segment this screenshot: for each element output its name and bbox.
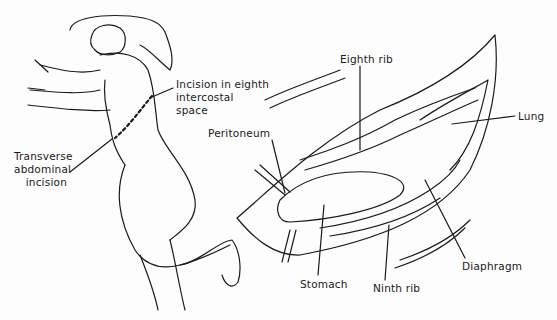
figure-canvas: Incision in eighth intercostal space Tra…: [0, 0, 557, 320]
arm-lower: [28, 105, 110, 111]
label-transverse-abdominal-incision: Transverse abdominal incision: [14, 150, 67, 189]
leg-outline: [119, 165, 230, 267]
stomach: [278, 172, 404, 222]
label-stomach: Stomach: [300, 278, 348, 291]
wound-outline: [237, 35, 496, 255]
pillow-outline: [70, 16, 172, 70]
label-peritoneum: Peritoneum: [208, 127, 270, 140]
ninth-rib: [320, 160, 460, 228]
label-diaphragm: Diaphragm: [462, 260, 522, 273]
incision-line: [115, 96, 152, 138]
eighth-rib: [300, 88, 475, 160]
label-incision-eighth-intercostal: Incision in eighth intercostal space: [176, 78, 269, 117]
label-lung: Lung: [518, 110, 544, 123]
head-outline: [91, 25, 126, 55]
arm-upper: [40, 65, 100, 72]
label-ninth-rib: Ninth rib: [373, 282, 420, 295]
label-eighth-rib: Eighth rib: [340, 53, 393, 66]
